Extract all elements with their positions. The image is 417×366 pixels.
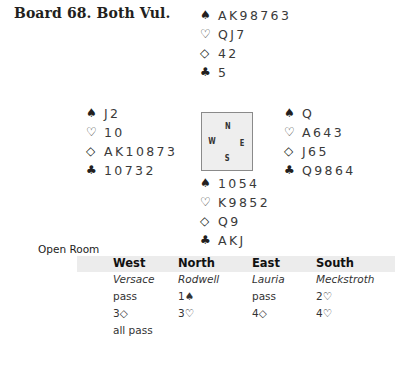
card-list: 1054 bbox=[218, 174, 259, 193]
spade-icon: ♠ bbox=[86, 104, 104, 123]
card-list: 5 bbox=[218, 63, 228, 82]
heart-icon: ♡ bbox=[200, 193, 218, 212]
card-list: AK98763 bbox=[218, 6, 291, 25]
south-hearts: ♡K9852 bbox=[200, 193, 270, 212]
board-title: Board 68. Both Vul. bbox=[14, 5, 170, 21]
bid-cell: pass bbox=[252, 290, 276, 302]
room-label: Open Room bbox=[38, 243, 99, 255]
diamond-icon: ◇ bbox=[86, 142, 104, 161]
heart-icon: ♡ bbox=[284, 123, 302, 142]
player-east: Lauria bbox=[252, 273, 285, 285]
club-icon: ♣ bbox=[200, 63, 218, 82]
card-list: Q9864 bbox=[302, 161, 356, 180]
compass-north: N bbox=[225, 121, 231, 131]
north-spades: ♠AK98763 bbox=[200, 6, 291, 25]
east-clubs: ♣Q9864 bbox=[284, 161, 356, 180]
bid-cell: all pass bbox=[113, 324, 153, 336]
player-north: Rodwell bbox=[178, 273, 219, 285]
card-list: Q9 bbox=[218, 212, 241, 231]
west-spades: ♠J2 bbox=[86, 104, 177, 123]
bidding-round-3: all pass bbox=[77, 323, 395, 340]
card-list: Q bbox=[302, 104, 314, 123]
east-spades: ♠Q bbox=[284, 104, 356, 123]
bid-cell: 2♡ bbox=[316, 290, 332, 302]
club-icon: ♣ bbox=[284, 161, 302, 180]
club-icon: ♣ bbox=[200, 231, 218, 250]
compass-south: S bbox=[225, 153, 230, 163]
auction-header-row: West North East South bbox=[77, 256, 395, 272]
north-clubs: ♣5 bbox=[200, 63, 291, 82]
header-south: South bbox=[316, 256, 354, 270]
east-hearts: ♡A643 bbox=[284, 123, 356, 142]
auction-table: West North East South Versace Rodwell La… bbox=[77, 256, 395, 340]
compass-east: E bbox=[240, 138, 245, 148]
card-list: 10732 bbox=[104, 161, 156, 180]
spade-icon: ♠ bbox=[284, 104, 302, 123]
bid-cell: pass bbox=[113, 290, 137, 302]
west-hearts: ♡10 bbox=[86, 123, 177, 142]
east-diamonds: ◇J65 bbox=[284, 142, 356, 161]
card-list: K9852 bbox=[218, 193, 270, 212]
spade-icon: ♠ bbox=[200, 6, 218, 25]
west-diamonds: ◇AK10873 bbox=[86, 142, 177, 161]
card-list: 10 bbox=[104, 123, 125, 142]
bid-cell: 1♠ bbox=[178, 290, 194, 302]
card-list: J2 bbox=[104, 104, 120, 123]
header-east: East bbox=[252, 256, 280, 270]
spade-icon: ♠ bbox=[200, 174, 218, 193]
south-spades: ♠1054 bbox=[200, 174, 270, 193]
south-hand: ♠1054 ♡K9852 ◇Q9 ♣AKJ bbox=[200, 174, 270, 250]
card-list: QJ7 bbox=[218, 25, 247, 44]
north-hand: ♠AK98763 ♡QJ7 ◇42 ♣5 bbox=[200, 6, 291, 82]
north-diamonds: ◇42 bbox=[200, 44, 291, 63]
heart-icon: ♡ bbox=[200, 25, 218, 44]
east-hand: ♠Q ♡A643 ◇J65 ♣Q9864 bbox=[284, 104, 356, 180]
compass-box: N W E S bbox=[201, 112, 253, 171]
bid-cell: 3◇ bbox=[113, 307, 128, 319]
players-row: Versace Rodwell Lauria Meckstroth bbox=[77, 272, 395, 289]
club-icon: ♣ bbox=[86, 161, 104, 180]
compass-west: W bbox=[208, 136, 215, 146]
bid-cell: 3♡ bbox=[178, 307, 194, 319]
north-hearts: ♡QJ7 bbox=[200, 25, 291, 44]
card-list: AKJ bbox=[218, 231, 246, 250]
bidding-round-2: 3◇ 3♡ 4◇ 4♡ bbox=[77, 306, 395, 323]
card-list: J65 bbox=[302, 142, 329, 161]
heart-icon: ♡ bbox=[86, 123, 104, 142]
bidding-round-1: pass 1♠ pass 2♡ bbox=[77, 289, 395, 306]
south-diamonds: ◇Q9 bbox=[200, 212, 270, 231]
west-hand: ♠J2 ♡10 ◇AK10873 ♣10732 bbox=[86, 104, 177, 180]
diamond-icon: ◇ bbox=[284, 142, 302, 161]
card-list: A643 bbox=[302, 123, 344, 142]
diamond-icon: ◇ bbox=[200, 44, 218, 63]
south-clubs: ♣AKJ bbox=[200, 231, 270, 250]
player-west: Versace bbox=[113, 273, 154, 285]
west-clubs: ♣10732 bbox=[86, 161, 177, 180]
player-south: Meckstroth bbox=[316, 273, 374, 285]
header-north: North bbox=[178, 256, 215, 270]
bid-cell: 4◇ bbox=[252, 307, 267, 319]
card-list: AK10873 bbox=[104, 142, 177, 161]
bid-cell: 4♡ bbox=[316, 307, 332, 319]
card-list: 42 bbox=[218, 44, 239, 63]
header-west: West bbox=[113, 256, 145, 270]
diamond-icon: ◇ bbox=[200, 212, 218, 231]
